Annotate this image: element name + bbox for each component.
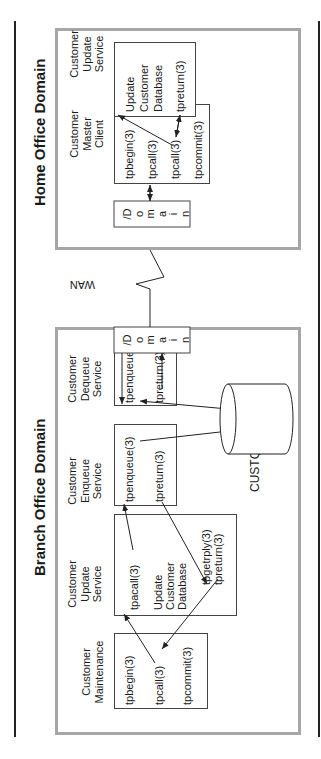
branch-update-service-label: Customer Update Service <box>66 544 104 624</box>
maintenance-label: Customer Maintenance <box>80 632 105 712</box>
home-update-label-line1: Customer <box>68 14 81 94</box>
home-domain-letters: /D o m a i n <box>114 201 190 227</box>
branch-update-label-line3: Service <box>91 544 104 624</box>
master-fn-tpcall-2: tpcall(3) <box>169 140 181 179</box>
branch-domain-letter: n <box>180 335 192 346</box>
home-update-label-line2: Update <box>81 14 94 94</box>
branch-domain-letter: m <box>145 335 157 346</box>
branch-update-label-line2: Update <box>79 544 92 624</box>
dequeue-service-label: Customer Dequeue Service <box>66 339 104 419</box>
enqueue-fn-tpreturn: tpreturn(3) <box>153 451 165 502</box>
master-label-line1: Customer <box>68 94 81 174</box>
branch-update-fn-tpacall: tpacall(3) <box>128 565 140 610</box>
dequeue-label-line1: Customer <box>66 339 79 419</box>
branch-update-body-2: Customer <box>164 562 176 610</box>
maintenance-label-line1: Customer <box>80 632 93 712</box>
enqueue-service-label: Customer Enqueue Service <box>66 441 104 521</box>
branch-update-fn-tpreturn: tpreturn(3) <box>212 534 224 585</box>
master-client-label: Customer Master Client <box>68 94 106 174</box>
branch-domain-letter: i <box>168 335 180 346</box>
master-label-line2: Master <box>81 94 94 174</box>
branch-update-label-line1: Customer <box>66 544 79 624</box>
home-update-body-3: Database <box>152 65 164 112</box>
master-fn-tpbegin: tpbegin(3) <box>123 129 135 179</box>
home-domain-letter: /D <box>122 209 134 220</box>
enqueue-fn-tpenqueue: tpenqueue(3) <box>123 437 135 502</box>
branch-update-body-3: Database <box>176 563 188 610</box>
wan-link <box>136 250 164 327</box>
branch-office-title: Branch Office Domain <box>31 418 48 576</box>
diagram-canvas: Branch Office Domain Home Office Domain … <box>0 0 321 759</box>
maintenance-fn-tpcall: tpcall(3) <box>153 666 165 705</box>
master-label-line3: Client <box>93 94 106 174</box>
branch-update-fn-tpgetrply: tpgetrply(3) <box>200 529 212 585</box>
dequeue-fn-tpreturn: tpreturn(3) <box>153 352 165 403</box>
home-domain-letter: m <box>145 209 157 220</box>
enqueue-label-line3: Service <box>91 441 104 521</box>
queue-label: CUSTQ <box>248 450 262 492</box>
dequeue-label-line2: Dequeue <box>79 339 92 419</box>
home-update-body-2: Customer <box>138 64 150 112</box>
master-fn-tpcommit: tpcommit(3) <box>192 121 204 179</box>
branch-domain-letter: /D <box>122 335 134 346</box>
branch-domain-letters: /D o m a i n <box>114 327 190 353</box>
master-fn-tpcall-1: tpcall(3) <box>146 140 158 179</box>
maintenance-fn-tpcommit: tpcommit(3) <box>181 647 193 705</box>
home-update-label-line3: Service <box>93 14 106 94</box>
enqueue-label-line2: Enqueue <box>79 441 92 521</box>
home-update-fn-tpreturn: tpreturn(3) <box>174 61 186 112</box>
dequeue-label-line3: Service <box>91 339 104 419</box>
enqueue-label-line1: Customer <box>66 441 79 521</box>
home-update-service-label: Customer Update Service <box>68 14 106 94</box>
maintenance-label-line2: Maintenance <box>93 632 106 712</box>
home-domain-letter: i <box>168 209 180 220</box>
home-domain-letter: n <box>180 209 192 220</box>
home-office-title: Home Office Domain <box>31 58 48 206</box>
branch-update-body-1: Update <box>152 575 164 610</box>
home-update-body-1: Update <box>124 77 136 112</box>
maintenance-fn-tpbegin: tpbegin(3) <box>123 655 135 705</box>
top-rule <box>14 21 16 737</box>
bottom-rule <box>318 21 320 737</box>
wan-label: WAN <box>70 279 95 291</box>
